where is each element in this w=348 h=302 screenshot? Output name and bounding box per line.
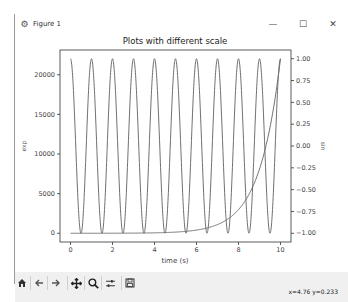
- toolbar-separator: [67, 276, 68, 290]
- navigation-toolbar: x=4.76 y=0.233: [15, 272, 348, 302]
- x-axis-label: time (s): [161, 257, 188, 265]
- x-tick-label: 0: [68, 246, 72, 254]
- toolbar-buttons: [15, 276, 137, 290]
- exp-series: [71, 59, 281, 234]
- figure-window: ⚙ Figure 1 — ☐ ✕ Plots with different sc…: [0, 0, 348, 302]
- pan-button[interactable]: [69, 276, 83, 290]
- x-tick-label: 4: [152, 246, 156, 254]
- left-y-axis-ticks: 05000100001500020000: [34, 71, 60, 237]
- left-y-tick-label: 20000: [34, 71, 55, 79]
- right-y-tick-label: 0.25: [296, 120, 310, 128]
- right-y-tick-label: −0.25: [296, 164, 316, 172]
- toolbar-separator: [47, 276, 48, 290]
- floppy-disk-icon: [125, 278, 135, 288]
- x-tick-label: 2: [110, 246, 114, 254]
- magnifier-icon: [88, 278, 99, 289]
- configure-subplots-button[interactable]: [103, 276, 117, 290]
- zoom-button[interactable]: [86, 276, 100, 290]
- back-button[interactable]: [32, 276, 46, 290]
- right-y-tick-label: −0.75: [296, 208, 316, 216]
- x-axis-ticks: 0246810: [68, 242, 284, 254]
- chart-title: Plots with different scale: [123, 36, 228, 46]
- left-y-tick-label: 0: [51, 229, 55, 237]
- left-y-tick-label: 5000: [38, 190, 55, 198]
- left-y-axis-label: exp: [20, 140, 28, 151]
- right-y-tick-label: 0.75: [296, 77, 310, 85]
- left-y-tick-label: 10000: [34, 150, 55, 158]
- move-icon: [71, 278, 82, 289]
- toolbar-separator: [101, 276, 102, 290]
- toolbar-separator: [121, 276, 122, 290]
- right-y-tick-label: 1.00: [296, 55, 310, 63]
- cursor-coordinates: x=4.76 y=0.233: [288, 288, 338, 295]
- toolbar-separator: [30, 276, 31, 290]
- x-tick-label: 10: [276, 246, 284, 254]
- arrow-left-icon: [34, 278, 44, 288]
- right-y-tick-label: 0.50: [296, 99, 310, 107]
- x-tick-label: 6: [194, 246, 198, 254]
- sin-series: [71, 59, 281, 234]
- right-y-axis-ticks: −1.00−0.75−0.50−0.250.000.250.500.751.00: [291, 55, 316, 238]
- sliders-icon: [105, 278, 116, 289]
- save-button[interactable]: [123, 276, 137, 290]
- toolbar-separator: [84, 276, 85, 290]
- right-y-tick-label: −0.50: [296, 186, 316, 194]
- right-y-axis-label: sin: [320, 142, 327, 151]
- x-tick-label: 8: [236, 246, 240, 254]
- left-y-tick-label: 15000: [34, 111, 55, 119]
- axes-frame: [60, 50, 291, 242]
- right-y-tick-label: −1.00: [296, 229, 316, 237]
- plot-canvas[interactable]: Plots with different scale 0246810 05000…: [0, 0, 348, 272]
- home-icon: [17, 278, 27, 288]
- arrow-right-icon: [51, 278, 61, 288]
- home-button[interactable]: [15, 276, 29, 290]
- forward-button[interactable]: [49, 276, 63, 290]
- right-y-tick-label: 0.00: [296, 142, 310, 150]
